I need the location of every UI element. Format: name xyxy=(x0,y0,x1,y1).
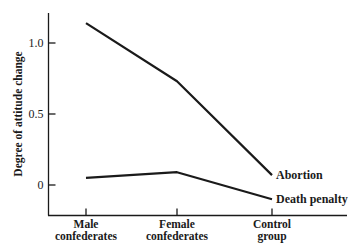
series-label: Abortion xyxy=(276,168,323,182)
series-line-abortion xyxy=(86,23,272,175)
x-ticks: MaleconfederatesFemaleconfederatesContro… xyxy=(55,209,291,244)
y-tick-label: 0.5 xyxy=(29,107,44,121)
y-axis-title-group: Degree of attitude change xyxy=(12,51,25,176)
x-category-label: Male xyxy=(74,218,99,230)
x-category-label: confederates xyxy=(146,230,208,242)
y-ticks: 00.51.0 xyxy=(29,36,56,192)
x-category-label: Control xyxy=(253,218,291,230)
y-tick-label: 0 xyxy=(38,178,44,192)
x-category-label: group xyxy=(257,230,286,243)
x-category-label: Female xyxy=(159,218,195,230)
y-axis-title: Degree of attitude change xyxy=(12,51,25,176)
line-chart: Degree of attitude change 00.51.0 Maleco… xyxy=(0,0,357,250)
y-tick-label: 1.0 xyxy=(29,36,44,50)
series-line-death-penalty xyxy=(86,172,272,199)
x-category-label: confederates xyxy=(55,230,117,242)
series-label: Death penalty xyxy=(276,192,348,206)
series: AbortionDeath penalty xyxy=(86,23,348,206)
